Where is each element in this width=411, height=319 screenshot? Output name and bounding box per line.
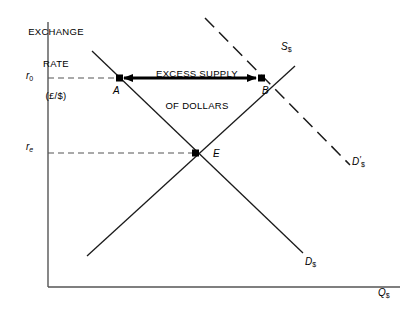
y-axis-title-line-3: (£/$) [14,91,98,102]
y-tick-label-r0: r0 [26,70,33,83]
curve-label-demand-shifted: D′$ [352,154,365,169]
y-tick-label-re-sub: e [29,146,33,153]
excess-supply-line-2: OF DOLLARS [133,101,261,112]
point-label-a: A [113,85,120,96]
curve-label-supply-base: S [281,41,288,52]
curve-label-demand-shifted-sub: $ [361,161,365,168]
curve-label-supply: S$ [281,41,292,54]
x-axis-label: Q$ [378,287,390,300]
curve-label-demand: D$ [305,256,316,269]
exchange-rate-diagram: EXCHANGE RATE (£/$) EXCESS SUPPLY OF DOL… [0,0,411,319]
point-marker-a [116,75,123,82]
excess-supply-annotation: EXCESS SUPPLY OF DOLLARS [133,48,261,133]
y-tick-label-re: re [26,141,33,154]
y-tick-label-r0-sub: 0 [29,75,33,82]
curve-label-demand-sub: $ [312,261,316,268]
y-axis-title-line-2: RATE [14,59,98,70]
x-axis-label-sub: $ [386,292,390,299]
point-label-b: B [262,85,269,96]
curve-label-supply-sub: $ [288,46,292,53]
excess-supply-line-1: EXCESS SUPPLY [133,69,261,80]
x-axis-label-base: Q [378,287,386,298]
y-axis-title: EXCHANGE RATE (£/$) [14,6,98,123]
point-marker-e [192,150,199,157]
point-label-e: E [213,148,220,159]
y-axis-title-line-1: EXCHANGE [14,27,98,38]
